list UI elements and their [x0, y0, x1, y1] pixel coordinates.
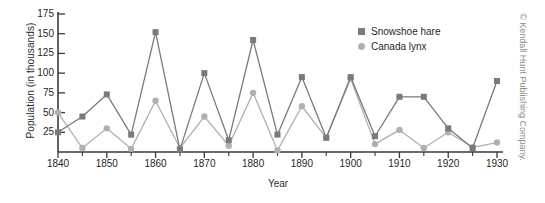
population-cycles-chart: Population (in thousands) Year 255075100…: [0, 0, 545, 203]
x-tick-label: 1910: [379, 158, 419, 169]
x-tick-label: 1930: [477, 158, 517, 169]
copyright-notice: © Kendall Hunt Publishing Company.: [518, 0, 528, 177]
x-tick-label: 1920: [428, 158, 468, 169]
x-tick-label: 1890: [282, 158, 322, 169]
legend-marker-square-icon: [358, 28, 365, 35]
x-axis-tick-labels: 1840185018601870188018901900191019201930: [0, 0, 545, 203]
x-tick-label: 1900: [331, 158, 371, 169]
x-tick-label: 1860: [136, 158, 176, 169]
x-tick-label: 1880: [233, 158, 273, 169]
x-tick-label: 1850: [87, 158, 127, 169]
legend-label-canada-lynx: Canada lynx: [371, 41, 427, 52]
legend-label-snowshoe-hare: Snowshoe hare: [371, 26, 441, 37]
legend-item-canada-lynx: Canada lynx: [358, 39, 441, 54]
x-tick-label: 1840: [38, 158, 78, 169]
legend-marker-circle-icon: [358, 43, 365, 50]
chart-legend: Snowshoe hare Canada lynx: [358, 24, 441, 54]
x-tick-label: 1870: [184, 158, 224, 169]
legend-item-snowshoe-hare: Snowshoe hare: [358, 24, 441, 39]
